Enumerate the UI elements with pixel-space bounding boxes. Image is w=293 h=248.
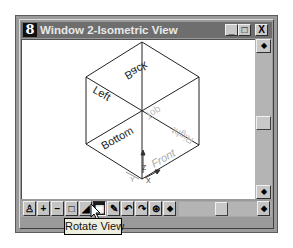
vertical-scrollbar[interactable]: ◆ ◆ (255, 39, 272, 199)
scroll-up-button[interactable]: ◆ (256, 39, 271, 53)
tooltip: Rotate View (64, 218, 122, 235)
isometric-cube-drawing: Back Left Top Right Bottom Front Z X Y (22, 40, 255, 199)
vertical-scroll-thumb[interactable] (256, 116, 271, 130)
title-bar[interactable]: 8 Window 2-Isometric View _ □ X (21, 22, 272, 38)
maximize-button[interactable]: □ (238, 24, 251, 36)
view-next-tool[interactable]: ↷ (135, 201, 148, 216)
window-title: Window 2-Isometric View (40, 23, 178, 37)
view-canvas[interactable]: Back Left Top Right Bottom Front Z X Y (21, 39, 255, 199)
label-left: Left (91, 83, 113, 103)
close-button[interactable]: X (255, 24, 268, 36)
label-right: Right (169, 125, 195, 146)
pan-view-tool[interactable]: ✎ (107, 201, 120, 216)
window-area-tool[interactable]: □ (65, 201, 78, 216)
horizontal-scroll-thumb[interactable] (215, 202, 228, 216)
view-window: 8 Window 2-Isometric View _ □ X Back Lef… (15, 15, 278, 233)
scroll-left-button[interactable]: ◆ (163, 201, 176, 216)
scroll-right-button[interactable]: ◆ (257, 201, 270, 216)
view-attributes-tool[interactable]: ⊛ (149, 201, 162, 216)
label-bottom: Bottom (99, 124, 135, 152)
view-previous-tool[interactable]: ↶ (121, 201, 134, 216)
label-top: Top (144, 104, 164, 122)
label-back: Back (123, 59, 151, 82)
axis-x-label: X (146, 177, 151, 184)
horizontal-scrollbar[interactable] (179, 202, 257, 216)
zoom-out-tool[interactable]: − (51, 201, 64, 216)
print-tool[interactable]: ♙ (23, 201, 36, 216)
scroll-down-button[interactable]: ◆ (256, 185, 271, 199)
minimize-button[interactable]: _ (225, 24, 238, 36)
axis-z-label: Z (142, 164, 147, 171)
app-icon[interactable]: 8 (23, 23, 37, 37)
zoom-in-tool[interactable]: + (37, 201, 50, 216)
view-control-toolbar: ♙ + − □ ◢ ▦ ✎ ↶ ↷ ⊛ ◆ ◆ (21, 201, 272, 217)
axis-y-label: Y (130, 176, 135, 183)
